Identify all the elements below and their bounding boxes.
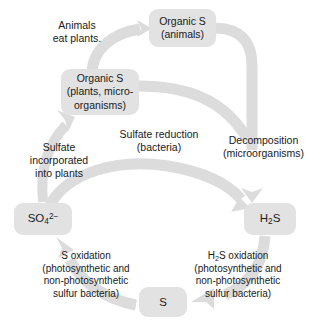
caption-sulfate-incorporated-line-3: into plants — [13, 167, 105, 180]
caption-animals-eat-plants: Animals eat plants. — [32, 19, 122, 45]
caption-s-oxidation-line-2: (photosynthetic and — [24, 263, 148, 276]
node-organic-s-animals-line-2: (animals) — [161, 28, 204, 41]
caption-animals-eat-plants-line-2: eat plants. — [32, 32, 122, 45]
node-organic-s-animals[interactable]: Organic S (animals) — [149, 9, 216, 47]
node-sulfate-formula-superscript: 2− — [49, 211, 58, 220]
node-h2s-formula: H2S — [260, 211, 281, 227]
node-hydrogen-sulfide[interactable]: H2S — [244, 203, 296, 235]
caption-sulfate-reduction-line-1: Sulfate reduction — [101, 128, 217, 141]
caption-s-oxidation-line-1: S oxidation — [24, 250, 148, 263]
caption-h2s-oxidation-line-1: H2S oxidation — [176, 250, 300, 263]
node-sulfate-formula-main: SO — [28, 212, 45, 224]
caption-s-oxidation-line-3: non-photosynthetic — [24, 275, 148, 288]
caption-h2s-oxidation-formula-pre: H — [208, 250, 215, 261]
node-h2s-formula-post: S — [273, 212, 281, 224]
node-elemental-sulfur-label: S — [159, 295, 167, 309]
node-organic-s-animals-line-1: Organic S — [159, 15, 206, 28]
caption-h2s-oxidation-line-2: (photosynthetic and — [176, 263, 300, 276]
caption-sulfate-reduction: Sulfate reduction (bacteria) — [101, 128, 217, 154]
caption-animals-eat-plants-line-1: Animals — [32, 19, 122, 32]
node-sulfate-ion[interactable]: SO42− — [14, 203, 72, 235]
caption-sulfate-incorporated-line-1: Sulfate — [13, 141, 105, 154]
caption-h2s-oxidation-formula-post: S oxidation — [219, 250, 268, 261]
sulfur-cycle-diagram: Organic S (animals) Organic S (plants, m… — [0, 0, 314, 324]
caption-s-oxidation-line-4: sulfur bacteria) — [24, 288, 148, 301]
caption-decomposition-line-2: (microorganisms) — [213, 147, 314, 160]
caption-s-oxidation: S oxidation (photosynthetic and non-phot… — [24, 250, 148, 300]
caption-h2s-oxidation: H2S oxidation (photosynthetic and non-ph… — [176, 250, 300, 300]
node-organic-s-plants-line-1: Organic S — [77, 72, 124, 85]
node-organic-s-plants[interactable]: Organic S (plants, micro- organisms) — [61, 69, 139, 115]
caption-h2s-oxidation-line-4: sulfur bacteria) — [176, 288, 300, 301]
node-organic-s-plants-line-2: (plants, micro- — [67, 85, 134, 98]
node-sulfate-formula: SO42− — [28, 211, 59, 227]
caption-decomposition: Decomposition (microorganisms) — [213, 134, 314, 160]
caption-decomposition-line-1: Decomposition — [213, 134, 314, 147]
caption-sulfate-incorporated-line-2: incorporated — [13, 154, 105, 167]
caption-sulfate-reduction-line-2: (bacteria) — [101, 141, 217, 154]
caption-sulfate-incorporated-into-plants: Sulfate incorporated into plants — [13, 141, 105, 181]
caption-h2s-oxidation-line-3: non-photosynthetic — [176, 275, 300, 288]
node-organic-s-plants-line-3: organisms) — [74, 99, 126, 112]
node-h2s-formula-pre: H — [260, 212, 268, 224]
